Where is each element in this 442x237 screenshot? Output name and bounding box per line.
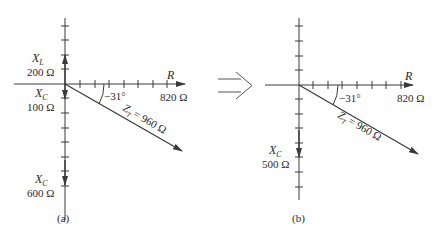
xc-600-label: XC [34, 172, 48, 188]
xc-100-value: 100 Ω [27, 101, 54, 113]
diagram-b: XC 500 Ω R 820 Ω −31° ZT= 960 Ω (b) [262, 18, 424, 225]
diagram-a: XL 200 Ω XC 100 Ω XC 600 Ω R 820 Ω −31° … [14, 18, 187, 225]
xc-500-label: XC [268, 143, 282, 159]
xl-label: XL [31, 51, 44, 67]
angle-arc [333, 85, 338, 105]
phasor-diagram-figure: XL 200 Ω XC 100 Ω XC 600 Ω R 820 Ω −31° … [0, 0, 442, 237]
xc-600-value: 600 Ω [27, 187, 54, 199]
caption-b: (b) [292, 212, 305, 225]
xc-100-label: XC [34, 86, 48, 102]
xl-value: 200 Ω [27, 66, 54, 78]
angle-label: −31° [104, 90, 126, 102]
impedance-label: ZT= 960 Ω [335, 108, 384, 145]
angle-label: −31° [339, 92, 361, 104]
double-arrow-icon [218, 72, 252, 99]
resistance-value: 820 Ω [397, 92, 424, 104]
resistance-value: 820 Ω [160, 91, 187, 103]
r-axis-label: R [404, 69, 413, 83]
caption-a: (a) [57, 212, 70, 225]
r-axis-label: R [166, 68, 175, 82]
xc-500-value: 500 Ω [262, 158, 289, 170]
